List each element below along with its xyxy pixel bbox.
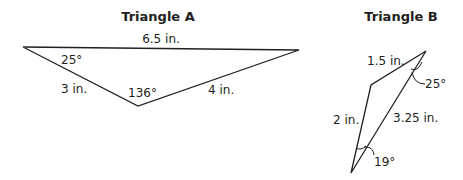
triangle-a-side-left: 3 in.: [61, 82, 87, 96]
triangle-b-title: Triangle B: [364, 9, 437, 24]
triangle-b-angle-bottom: 19°: [374, 155, 395, 169]
triangle-a-angle-left: 25°: [61, 53, 82, 67]
triangle-b: Triangle B 1.5 in. 2 in. 3.25 in. 25° 19…: [333, 9, 446, 173]
triangle-a-angle-bottom: 136°: [128, 86, 157, 100]
triangle-a-side-right: 4 in.: [208, 83, 234, 97]
triangle-a-title: Triangle A: [121, 9, 195, 24]
triangle-b-side-top: 1.5 in.: [367, 54, 405, 68]
triangle-a: Triangle A 6.5 in. 25° 3 in. 136° 4 in.: [23, 9, 299, 106]
triangle-b-side-diagonal: 3.25 in.: [393, 111, 438, 125]
triangle-a-side-top: 6.5 in.: [142, 32, 180, 46]
triangles-diagram: Triangle A 6.5 in. 25° 3 in. 136° 4 in. …: [0, 0, 463, 180]
angle-leader-top: [412, 72, 425, 84]
angle-leader-bottom: [364, 147, 374, 155]
triangle-b-angle-top: 25°: [425, 77, 446, 91]
triangle-b-side-left: 2 in.: [333, 113, 359, 127]
